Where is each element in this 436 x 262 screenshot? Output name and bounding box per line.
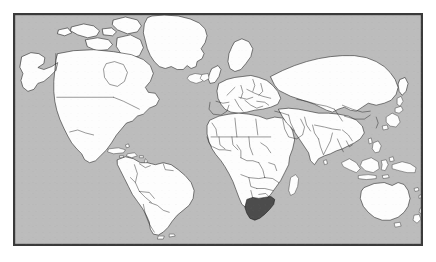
puerto-rico-island [139,156,143,158]
japan-kyushu [382,125,388,130]
halmahera-island [389,157,394,162]
world-map-figure: World Map South Africa [0,0,436,262]
figure-title: World Map [0,0,1,1]
java-island [358,175,376,180]
tasmania-island [394,222,401,227]
bahamas-islands [125,144,129,148]
highlighted-country-label: South Africa [0,0,1,1]
world-map-svg [14,14,422,245]
map-border [13,13,423,246]
tierra-del-fuego [157,236,164,239]
